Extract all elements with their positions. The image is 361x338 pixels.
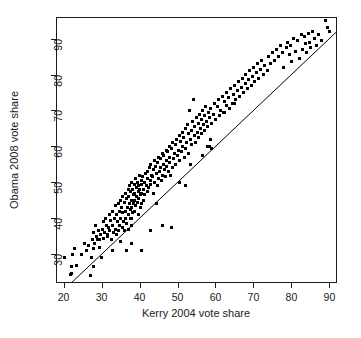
data-point xyxy=(92,265,95,268)
data-point xyxy=(155,202,158,205)
data-point xyxy=(181,131,184,134)
data-point xyxy=(190,129,193,132)
x-tick-mark xyxy=(329,283,330,288)
plot-frame xyxy=(56,17,337,283)
data-point xyxy=(225,104,228,107)
data-point xyxy=(159,166,162,169)
data-point xyxy=(311,30,314,33)
data-point xyxy=(160,179,163,182)
y-tick-label: 60 xyxy=(53,146,64,158)
y-tick-label: 70 xyxy=(53,110,64,122)
data-point xyxy=(257,77,260,80)
data-point xyxy=(232,93,235,96)
data-point xyxy=(116,220,119,223)
data-point xyxy=(101,228,104,231)
data-point xyxy=(286,41,289,44)
y-axis-title: Obama 2008 vote share xyxy=(9,91,20,209)
data-point xyxy=(142,199,145,202)
data-point xyxy=(111,249,114,252)
data-point xyxy=(305,51,308,54)
data-point xyxy=(204,105,207,108)
data-point xyxy=(262,73,265,76)
data-point xyxy=(172,157,175,160)
data-point xyxy=(80,253,83,256)
data-point xyxy=(149,183,152,186)
data-point xyxy=(119,217,122,220)
data-point xyxy=(184,184,187,187)
data-point xyxy=(119,240,122,243)
y-tick-label: 80 xyxy=(53,75,64,87)
data-point xyxy=(127,228,130,231)
data-point xyxy=(141,175,144,178)
data-point xyxy=(137,213,140,216)
data-point xyxy=(159,157,162,160)
data-point xyxy=(229,87,232,90)
data-point xyxy=(285,46,288,49)
data-point xyxy=(208,116,211,119)
data-point xyxy=(210,122,213,125)
data-point xyxy=(237,80,240,83)
data-point xyxy=(143,193,146,196)
data-point xyxy=(208,145,211,148)
data-point xyxy=(127,195,130,198)
data-point xyxy=(298,57,301,60)
data-point xyxy=(124,217,127,220)
data-point xyxy=(233,84,236,87)
data-point xyxy=(267,55,270,58)
data-point xyxy=(217,98,220,101)
data-point xyxy=(117,202,120,205)
data-point xyxy=(118,210,121,213)
data-point xyxy=(324,19,327,22)
data-point xyxy=(73,247,76,250)
data-point xyxy=(98,238,101,241)
data-point xyxy=(140,202,143,205)
data-point xyxy=(99,233,102,236)
data-point xyxy=(279,44,282,47)
data-point xyxy=(188,109,191,112)
data-point xyxy=(140,249,143,252)
data-point xyxy=(253,80,256,83)
data-point xyxy=(277,55,280,58)
data-point xyxy=(282,66,285,69)
data-point xyxy=(250,84,253,87)
x-tick-mark xyxy=(102,283,103,288)
x-tick-label: 50 xyxy=(172,292,184,303)
data-point xyxy=(307,32,310,35)
x-tick-label: 20 xyxy=(58,292,70,303)
data-point xyxy=(183,156,186,159)
data-point xyxy=(168,161,171,164)
data-point xyxy=(309,46,312,49)
data-point xyxy=(98,246,101,249)
data-point xyxy=(162,154,165,157)
x-tick-mark xyxy=(253,283,254,288)
data-point xyxy=(266,69,269,72)
data-point xyxy=(121,226,124,229)
data-point xyxy=(130,199,133,202)
data-point xyxy=(256,62,259,65)
data-point xyxy=(209,107,212,110)
data-point xyxy=(255,71,258,74)
data-point xyxy=(100,256,103,259)
x-tick-mark xyxy=(64,283,65,288)
data-point xyxy=(170,226,173,229)
data-point xyxy=(252,66,255,69)
data-point xyxy=(281,51,284,54)
data-point xyxy=(146,190,149,193)
data-point xyxy=(152,192,155,195)
x-tick-label: 80 xyxy=(286,292,298,303)
data-point xyxy=(186,123,189,126)
data-point xyxy=(128,202,131,205)
data-point xyxy=(216,105,219,108)
data-point xyxy=(179,140,182,143)
data-point xyxy=(317,33,320,36)
data-point xyxy=(90,256,93,259)
data-point xyxy=(238,95,241,98)
data-point xyxy=(251,75,254,78)
data-point xyxy=(117,229,120,232)
data-point xyxy=(246,87,249,90)
data-point xyxy=(320,39,323,42)
data-point xyxy=(108,213,111,216)
data-point xyxy=(201,109,204,112)
data-point xyxy=(184,147,187,150)
data-point xyxy=(110,238,113,241)
